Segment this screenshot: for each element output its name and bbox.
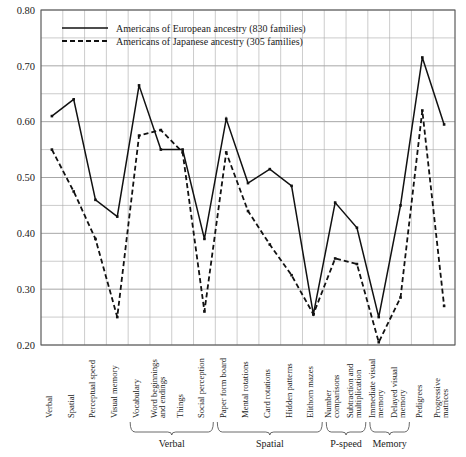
data-point: [334, 257, 337, 260]
data-point: [51, 148, 54, 151]
data-point: [116, 316, 119, 319]
data-point: [181, 151, 184, 154]
x-axis-tick-label: Visual memory: [109, 365, 119, 418]
data-point: [203, 238, 206, 241]
data-point: [290, 274, 293, 277]
correlation-line-chart: 0.200.300.400.500.600.700.80Americans of…: [0, 0, 466, 457]
data-point: [399, 204, 402, 207]
x-axis-tick-label: Things: [175, 393, 185, 418]
data-point: [116, 215, 119, 218]
y-axis-tick-label: 0.20: [17, 340, 35, 351]
data-point: [51, 115, 54, 118]
data-point: [377, 341, 380, 344]
chart-canvas: 0.200.300.400.500.600.700.80Americans of…: [0, 0, 466, 457]
group-bracket: [326, 422, 366, 435]
x-axis-tick-label: memory: [397, 389, 407, 418]
group-label: P-speed: [330, 438, 362, 449]
data-point: [225, 151, 228, 154]
data-point: [94, 199, 97, 202]
data-point: [268, 243, 271, 246]
x-axis-tick-label: Hidden patterns: [284, 363, 294, 418]
data-point: [399, 296, 402, 299]
data-point: [356, 226, 359, 229]
y-axis-tick-label: 0.50: [17, 172, 35, 183]
data-point: [138, 134, 141, 137]
x-axis-tick-label: Vocabulary: [131, 378, 141, 418]
y-axis-tick-label: 0.40: [17, 228, 35, 239]
data-point: [94, 238, 97, 241]
series-line-japanese: [52, 111, 444, 343]
data-point: [443, 305, 446, 308]
data-point: [268, 168, 271, 171]
data-point: [247, 182, 250, 185]
x-axis-tick-label: and endings: [157, 376, 167, 418]
group-bracket: [217, 422, 322, 435]
data-point: [334, 201, 337, 204]
legend-label-european: Americans of European ancestry (830 fami…: [116, 23, 306, 35]
data-point: [421, 109, 424, 112]
data-point: [72, 190, 75, 193]
data-point: [160, 129, 163, 132]
data-point: [377, 316, 380, 319]
data-point: [312, 313, 315, 316]
data-point: [290, 185, 293, 188]
data-point: [138, 84, 141, 87]
series-line-european: [52, 57, 444, 317]
x-axis-tick-label: memory: [375, 389, 385, 418]
data-point: [247, 210, 250, 213]
group-label: Verbal: [159, 438, 185, 449]
y-axis-tick-label: 0.70: [17, 61, 35, 72]
data-point: [356, 263, 359, 266]
x-axis-tick-label: Mental rotations: [240, 361, 250, 418]
y-axis-tick-label: 0.30: [17, 284, 35, 295]
x-axis-tick-label: Spatial: [66, 394, 76, 418]
x-axis-tick-label: Pedigrees: [414, 384, 424, 418]
x-axis-tick-label: Verbal: [44, 395, 54, 418]
data-point: [72, 98, 75, 101]
y-axis-tick-label: 0.80: [17, 5, 35, 16]
x-axis-tick-label: matrices: [440, 388, 450, 418]
legend-label-japanese: Americans of Japanese ancestry (305 fami…: [116, 36, 303, 48]
x-axis-tick-label: Perceptual speed: [87, 359, 97, 418]
data-point: [181, 148, 184, 151]
data-point: [421, 56, 424, 59]
x-axis-tick-label: multiplication: [353, 369, 363, 418]
group-bracket: [130, 422, 213, 435]
group-label: Memory: [372, 438, 406, 449]
data-point: [160, 148, 163, 151]
data-point: [225, 118, 228, 121]
group-bracket: [370, 422, 410, 435]
x-axis-tick-label: Social perception: [196, 357, 206, 418]
data-point: [203, 310, 206, 313]
x-axis-tick-label: comparisons: [331, 374, 341, 418]
x-axis-tick-label: Paper form board: [218, 357, 228, 418]
data-point: [443, 123, 446, 126]
x-axis-tick-label: Card rotations: [262, 368, 272, 418]
x-axis-tick-label: Elithorn mazes: [305, 366, 315, 418]
y-axis-tick-label: 0.60: [17, 116, 35, 127]
group-label: Spatial: [256, 438, 284, 449]
